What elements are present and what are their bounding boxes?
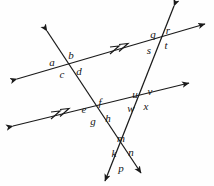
parallel-tick-marks-lower: [51, 109, 69, 120]
upper-parallel-line: [17, 24, 205, 79]
angle-label-h: h: [105, 113, 111, 124]
angle-label-r: r: [166, 25, 170, 36]
angle-label-q: q: [150, 29, 156, 40]
angle-label-c: c: [60, 69, 65, 80]
angle-label-k: k: [112, 148, 117, 159]
angle-label-a: a: [49, 57, 55, 68]
angle-label-e: e: [82, 104, 87, 115]
angle-label-v: v: [148, 86, 153, 97]
angle-label-t: t: [164, 40, 167, 51]
angle-label-x: x: [144, 101, 149, 112]
angle-label-s: s: [147, 45, 151, 56]
geometry-canvas: [0, 0, 214, 186]
angle-label-m: m: [117, 133, 125, 144]
angle-label-w: w: [127, 103, 134, 114]
geometry-figure: a b c d q r s t e f g h u v w x m k n p: [0, 0, 214, 186]
angle-label-g: g: [90, 116, 96, 127]
angle-label-n: n: [128, 147, 134, 158]
angle-label-f: f: [98, 97, 101, 108]
angle-label-d: d: [76, 66, 82, 77]
angle-label-p: p: [118, 163, 124, 174]
angle-label-u: u: [132, 89, 138, 100]
line-group: [13, 6, 205, 181]
angle-label-b: b: [68, 50, 74, 61]
